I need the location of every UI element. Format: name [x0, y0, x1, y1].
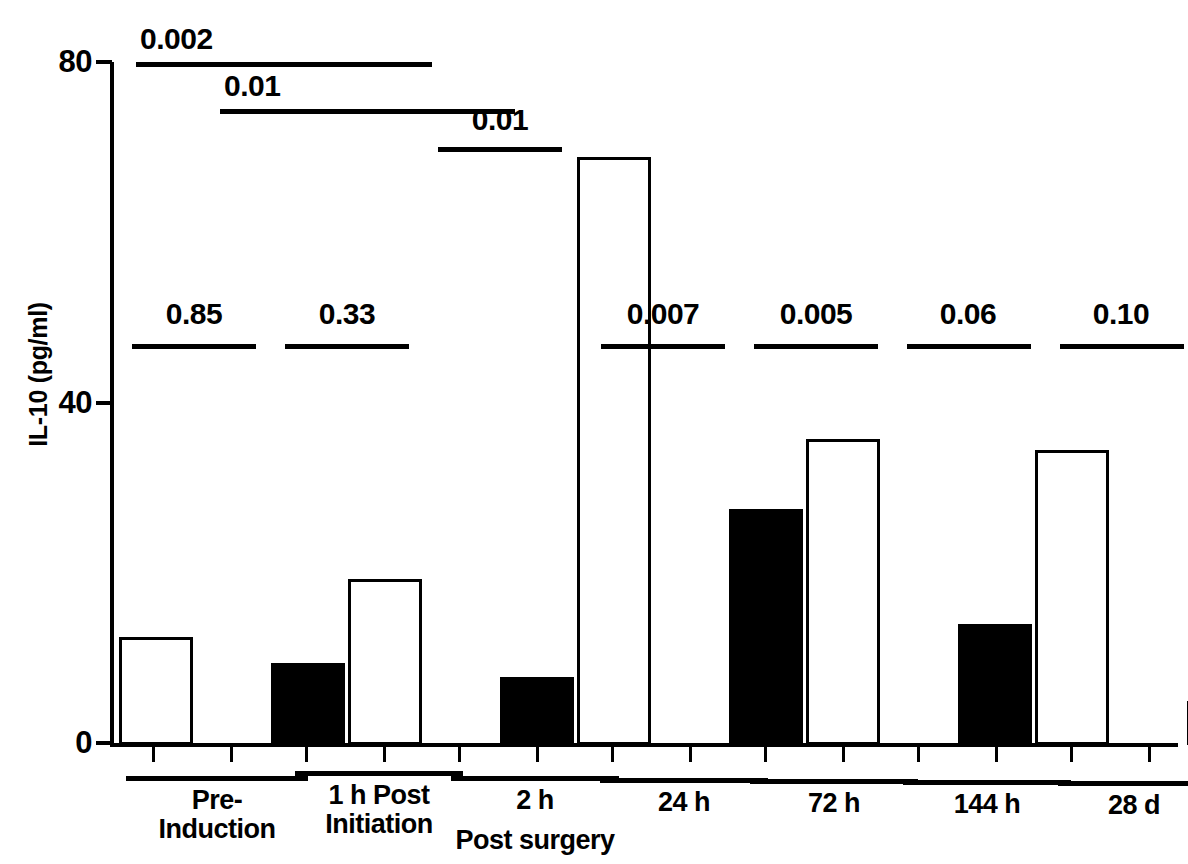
x-tick [152, 747, 155, 762]
y-tick-label-0: 0 [30, 727, 92, 758]
x-tick [383, 747, 386, 762]
y-axis-title: IL-10 (pg/ml) [24, 245, 53, 505]
sig-label-group-5: 0.06 [913, 299, 1023, 329]
sig-line-group-3 [601, 344, 725, 349]
sig-line-group-0 [132, 344, 256, 349]
sig-label-group-4: 0.005 [753, 299, 879, 329]
group-rule-144h [903, 780, 1071, 785]
group-label-2h: 2 h [451, 786, 619, 815]
x-tick [917, 747, 920, 762]
plot-area-right [110, 62, 1178, 745]
y-tick-label-80: 80 [30, 46, 92, 77]
group-rule-28d [1058, 781, 1188, 786]
x-tick [689, 747, 692, 762]
x-tick [536, 747, 539, 762]
x-axis-sub-label: Post surgery [390, 826, 680, 855]
x-tick [305, 747, 308, 762]
sig-line-group-6 [1060, 344, 1184, 349]
x-tick [230, 747, 233, 762]
sig-line-group-2 [438, 147, 562, 152]
x-tick [842, 747, 845, 762]
chart-figure: 80 40 0 IL-10 (pg/ml) [0, 0, 1188, 864]
x-tick [611, 747, 614, 762]
sig-label-group-2: 0.01 [447, 105, 553, 135]
group-rule-24h [600, 778, 768, 783]
x-tick [1148, 747, 1151, 762]
group-label-72h: 72 h [750, 789, 918, 818]
group-label-144h: 144 h [903, 790, 1071, 819]
sig-label-group-0: 0.85 [141, 299, 247, 329]
sig-line-span-0 [136, 62, 432, 67]
group-label-28d: 28 d [1050, 791, 1188, 820]
x-tick [995, 747, 998, 762]
group-rule-1h-post-initiation [295, 771, 463, 776]
sig-label-group-1: 0.33 [294, 299, 400, 329]
sig-label-group-6: 0.10 [1066, 299, 1176, 329]
x-tick [764, 747, 767, 762]
sig-line-group-5 [907, 344, 1031, 349]
sig-line-group-1 [285, 344, 409, 349]
group-label-24h: 24 h [600, 788, 768, 817]
sig-line-group-4 [754, 344, 878, 349]
sig-label-span-0: 0.002 [140, 24, 213, 54]
x-tick [1070, 747, 1073, 762]
sig-label-span-1: 0.01 [224, 71, 280, 101]
x-tick [458, 747, 461, 762]
sig-label-group-3: 0.007 [600, 299, 726, 329]
group-rule-72h [750, 779, 918, 784]
group-rule-2h [451, 776, 619, 781]
